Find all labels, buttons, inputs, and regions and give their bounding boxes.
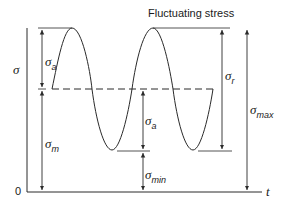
sigma-min-label: σmin (145, 166, 166, 182)
origin-label: 0 (15, 186, 21, 197)
sigma-max-label: σmax (250, 101, 273, 117)
sigma-m-label: σm (45, 135, 59, 151)
sigma-a-left-label: σa (45, 53, 56, 69)
diagram-title: Fluctuating stress (148, 8, 234, 19)
sigma-r-label: σr (225, 67, 234, 83)
y-axis-label: σ (13, 63, 19, 76)
sigma-a-mid-label: σa (145, 112, 156, 128)
x-axis-label: t (266, 185, 270, 198)
